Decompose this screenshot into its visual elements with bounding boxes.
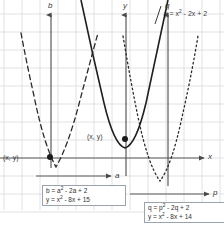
grid-lines <box>0 0 224 212</box>
eq-l1-post: - 2a + 2 <box>63 187 87 194</box>
axis-label-a: a <box>115 172 119 180</box>
axis-label-b: b <box>48 2 52 10</box>
equation-leader-line <box>155 6 161 24</box>
dashed-parabola-left <box>21 33 98 167</box>
main-equation-base: y = x <box>164 10 179 17</box>
main-equation-rest: - 2x + 2 <box>182 10 207 17</box>
eq-r2-pre: y = x <box>148 213 162 220</box>
equation-box-right-line2: y = x2 - 8x + 14 <box>148 213 224 222</box>
point-marker-left <box>47 154 53 160</box>
equation-box-left-line1: b = a2 - 2a + 2 <box>46 187 123 196</box>
axis-label-p: p <box>213 189 217 197</box>
equation-box-left: b = a2 - 2a + 2 y = x2 - 8x + 15 <box>42 185 126 206</box>
axis-label-x: x <box>208 153 212 161</box>
point-marker-center <box>122 136 128 142</box>
eq-r1-pre: q = p <box>148 204 163 211</box>
eq-r2-post: - 8x + 14 <box>165 213 192 220</box>
axis-label-q: q <box>165 2 169 10</box>
point-label-left: (x, y) <box>3 154 19 162</box>
point-label-center: (x, y) <box>87 133 103 141</box>
graph-figure: b y q x a p y = x2 - 2x + 2 (x, y) (x, y… <box>0 0 224 238</box>
axis-label-y: y <box>123 2 127 10</box>
eq-l2-post: - 8x + 15 <box>63 196 90 203</box>
equation-box-left-line2: y = x2 - 8x + 15 <box>46 196 123 205</box>
equation-box-right: q = p2 - 2q + 2 y = x2 - 8x + 14 <box>144 202 224 223</box>
dotted-parabola-right <box>123 36 198 181</box>
eq-r1-post: - 2q + 2 <box>165 204 189 211</box>
main-equation-label: y = x2 - 2x + 2 <box>164 10 207 18</box>
equation-box-right-line1: q = p2 - 2q + 2 <box>148 204 224 213</box>
eq-l1-pre: b = a <box>46 187 61 194</box>
eq-l2-pre: y = x <box>46 196 60 203</box>
